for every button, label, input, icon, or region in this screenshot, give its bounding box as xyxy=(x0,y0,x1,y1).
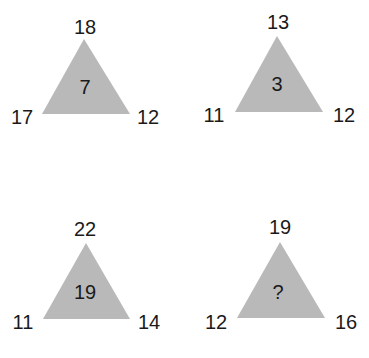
triangle-4-left: 12 xyxy=(205,312,227,332)
triangle-2-top: 13 xyxy=(267,12,289,32)
triangle-2-left: 11 xyxy=(204,105,225,125)
triangle-1-top: 18 xyxy=(74,17,96,37)
triangle-1-left: 17 xyxy=(11,107,33,127)
triangle-4-right: 16 xyxy=(335,312,357,332)
triangle-3-center: 19 xyxy=(74,282,96,302)
triangle-4-center-unknown: ? xyxy=(272,282,283,302)
triangle-4 xyxy=(237,242,325,318)
triangle-3-left: 11 xyxy=(13,312,34,332)
triangles-canvas xyxy=(0,0,369,358)
triangle-3-top: 22 xyxy=(74,219,96,239)
number-triangle-puzzle: 18 17 12 7 13 11 12 3 22 11 14 19 19 12 … xyxy=(0,0,369,358)
triangle-1-right: 12 xyxy=(137,107,159,127)
triangle-3-right: 14 xyxy=(138,312,160,332)
triangle-4-top: 19 xyxy=(269,217,291,237)
triangle-2-right: 12 xyxy=(333,105,355,125)
triangle-2-center: 3 xyxy=(271,74,282,94)
triangle-1-center: 7 xyxy=(79,77,90,97)
